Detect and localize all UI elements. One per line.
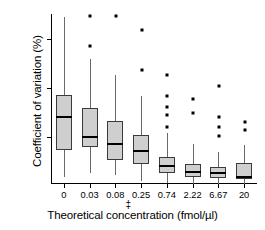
whisker-lower bbox=[141, 164, 142, 181]
whisker-lower bbox=[218, 178, 219, 184]
outlier-point bbox=[192, 112, 195, 115]
outlier-point bbox=[140, 29, 143, 32]
x-tick-mark bbox=[90, 184, 91, 188]
median-line bbox=[56, 116, 72, 118]
x-tick-mark bbox=[218, 184, 219, 188]
x-tick-label: 0 bbox=[61, 190, 66, 200]
x-tick-label: 20 bbox=[239, 190, 249, 200]
outlier-point bbox=[243, 129, 246, 132]
outlier-point bbox=[217, 126, 220, 129]
whisker-lower bbox=[244, 179, 245, 184]
whisker-upper bbox=[193, 144, 194, 165]
outlier-point bbox=[89, 44, 92, 47]
box bbox=[107, 121, 123, 159]
whisker-lower bbox=[90, 147, 91, 173]
outlier-point bbox=[114, 15, 117, 18]
x-tick-mark bbox=[193, 184, 194, 188]
median-line bbox=[133, 150, 149, 152]
plot-area bbox=[51, 14, 257, 183]
whisker-upper bbox=[141, 96, 142, 135]
x-axis-line bbox=[51, 183, 257, 184]
x-tick-mark bbox=[64, 184, 65, 188]
x-tick-mark bbox=[141, 184, 142, 188]
x-tick-mark bbox=[244, 184, 245, 188]
outlier-point bbox=[166, 74, 169, 77]
outlier-point bbox=[217, 135, 220, 138]
x-tick-label: 0.08 bbox=[106, 190, 124, 200]
outlier-point bbox=[166, 114, 169, 117]
whisker-upper bbox=[115, 75, 116, 121]
x-tick-mark bbox=[167, 184, 168, 188]
whisker-lower bbox=[115, 160, 116, 176]
median-line bbox=[236, 176, 252, 178]
whisker-upper bbox=[167, 133, 168, 157]
whisker-upper bbox=[218, 152, 219, 168]
x-axis-title: Theoretical concentration (fmol/µl) bbox=[0, 209, 265, 221]
whisker-lower bbox=[193, 177, 194, 184]
x-tick-label: 0.25 bbox=[132, 190, 150, 200]
whisker-upper bbox=[64, 17, 65, 94]
box bbox=[56, 95, 72, 150]
whisker-upper bbox=[90, 59, 91, 108]
outlier-point bbox=[166, 94, 169, 97]
x-tick-label: 2.22 bbox=[184, 190, 202, 200]
median-line bbox=[82, 136, 98, 138]
whisker-upper bbox=[244, 145, 245, 164]
median-line bbox=[210, 172, 226, 174]
boxplot-figure: Coefficient of variation (%) 50100150 00… bbox=[0, 0, 265, 230]
x-tick-label: 6.67 bbox=[209, 190, 227, 200]
x-tick-mark bbox=[115, 184, 116, 188]
outlier-point bbox=[192, 97, 195, 100]
median-line bbox=[107, 143, 123, 145]
whisker-lower bbox=[167, 173, 168, 183]
box bbox=[82, 108, 98, 147]
y-axis-title: Coefficient of variation (%) bbox=[31, 16, 43, 186]
outlier-point bbox=[243, 121, 246, 124]
outlier-point bbox=[140, 69, 143, 72]
outlier-point bbox=[89, 15, 92, 18]
x-tick-label: 0.74 bbox=[158, 190, 176, 200]
whisker-lower bbox=[64, 150, 65, 177]
outlier-point bbox=[217, 85, 220, 88]
median-line bbox=[159, 165, 175, 167]
median-line bbox=[185, 171, 201, 173]
outlier-point bbox=[166, 126, 169, 129]
outlier-point bbox=[217, 116, 220, 119]
x-tick-label: 0.03 bbox=[81, 190, 99, 200]
outlier-point bbox=[166, 105, 169, 108]
